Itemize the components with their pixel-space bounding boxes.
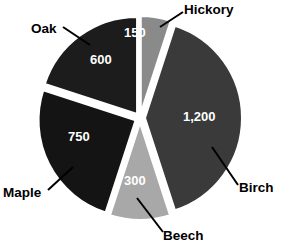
slice-value-beech: 300 — [124, 174, 146, 187]
category-label-birch: Birch — [239, 181, 274, 195]
slice-value-maple: 750 — [68, 130, 90, 143]
slice-value-birch: 1,200 — [183, 110, 216, 123]
category-label-maple: Maple — [3, 186, 41, 200]
category-label-hickory: Hickory — [184, 3, 234, 17]
category-label-beech: Beech — [163, 229, 204, 243]
category-label-oak: Oak — [31, 22, 57, 36]
pie-chart: 150 1,200 300 750 600 Oak Hickory Birch … — [0, 0, 281, 247]
slice-value-hickory: 150 — [124, 26, 146, 39]
slice-value-oak: 600 — [90, 53, 112, 66]
